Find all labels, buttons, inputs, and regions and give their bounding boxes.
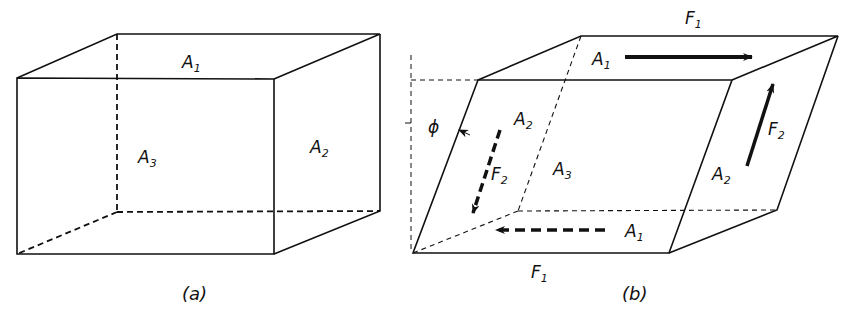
figure-a-labels: A1 A3 A2 (a) xyxy=(137,52,329,304)
label-a3: A3 xyxy=(137,147,157,170)
label-f2-right: F2 xyxy=(768,119,785,142)
angle-arrow-icon xyxy=(459,130,470,135)
label-a1-top: A1 xyxy=(591,49,611,72)
label-f1-bottom: F1 xyxy=(531,262,548,285)
label-f2-left: F2 xyxy=(491,164,508,187)
label-a1: A1 xyxy=(181,52,201,75)
caption-b: (b) xyxy=(622,283,647,304)
angle-phi-label: ϕ xyxy=(428,117,439,137)
shear-deformation-diagram: A1 A3 A2 (a) F1 A1 A2 F2 A3 A2 F2 A1 F1 … xyxy=(0,0,850,318)
label-a1-bottom: A1 xyxy=(624,221,644,244)
front-face-outline xyxy=(413,80,732,253)
label-a2-right: A2 xyxy=(711,164,731,187)
label-a2: A2 xyxy=(309,137,329,160)
caption-a: (a) xyxy=(182,283,207,304)
label-a2-left: A2 xyxy=(513,109,533,132)
figure-b-reference xyxy=(411,55,478,253)
label-f1-top: F1 xyxy=(685,8,702,31)
right-face-outline xyxy=(274,34,380,254)
label-a3: A3 xyxy=(552,159,572,182)
figure-b-labels: F1 A1 A2 F2 A3 A2 F2 A1 F1 ϕ (b) xyxy=(428,8,785,304)
